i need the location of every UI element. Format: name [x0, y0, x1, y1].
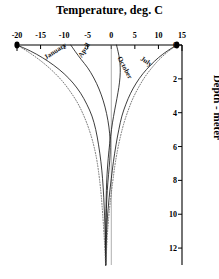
curve-october	[106, 45, 121, 265]
temperature-depth-chart: Temperature, deg. C -20-15-10-5051015 02…	[0, 0, 219, 279]
plot-canvas	[0, 0, 219, 279]
axes-layer	[17, 45, 182, 265]
x-tick-label: 5	[133, 31, 137, 40]
surface-min-marker	[14, 42, 19, 49]
x-tick-label: 10	[154, 31, 162, 40]
curve-january	[17, 45, 106, 265]
y-axis-title: Depth - meter	[212, 74, 219, 139]
x-tick-label: 15	[178, 31, 186, 40]
x-tick-label: 0	[109, 31, 113, 40]
x-tick-label: -5	[84, 31, 91, 40]
y-tick-label: 0	[162, 41, 177, 50]
y-tick-label: 6	[162, 142, 177, 151]
y-tick-label: 8	[162, 176, 177, 185]
x-tick-label: -10	[59, 31, 70, 40]
x-tick-label: -20	[12, 31, 23, 40]
y-tick-label: 4	[162, 108, 177, 117]
x-tick-label: -15	[35, 31, 46, 40]
y-tick-label: 10	[162, 210, 177, 219]
curve-minimum-envelope	[17, 45, 106, 265]
curve-april	[71, 45, 110, 265]
y-tick-label: 12	[162, 244, 177, 253]
y-tick-label: 2	[162, 74, 177, 83]
curves-layer	[17, 45, 177, 265]
